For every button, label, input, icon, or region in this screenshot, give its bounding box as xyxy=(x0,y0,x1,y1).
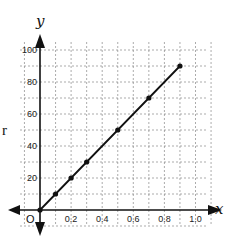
data-point xyxy=(69,175,74,180)
side-label: r xyxy=(2,122,7,138)
data-series xyxy=(37,63,182,212)
data-point xyxy=(115,127,120,132)
x-tick-label: 0.8 xyxy=(158,214,171,224)
x-tick-label: 0.6 xyxy=(127,214,140,224)
x-axis-label: x xyxy=(215,200,224,218)
x-tick-label: 0.2 xyxy=(65,214,78,224)
line-chart: 0.20.40.60.81.020406080100 y x r O xyxy=(0,0,232,242)
y-tick-label: 100 xyxy=(22,45,37,55)
data-point xyxy=(37,207,42,212)
y-tick-label: 40 xyxy=(27,141,37,151)
origin-label: O xyxy=(26,213,35,225)
y-tick-label: 60 xyxy=(27,109,37,119)
x-axis-left-arrow-icon xyxy=(8,205,20,215)
axes xyxy=(8,34,222,236)
data-point xyxy=(53,191,58,196)
y-axis-label: y xyxy=(35,12,45,30)
y-tick-label: 80 xyxy=(27,77,37,87)
y-tick-label: 20 xyxy=(27,173,37,183)
data-point xyxy=(146,95,151,100)
series-line xyxy=(40,66,180,210)
y-axis-down-arrow-icon xyxy=(35,222,45,236)
x-tick-label: 0.4 xyxy=(96,214,109,224)
grid xyxy=(20,42,211,226)
x-tick-label: 1.0 xyxy=(189,214,202,224)
data-point xyxy=(177,63,182,68)
data-point xyxy=(84,159,89,164)
